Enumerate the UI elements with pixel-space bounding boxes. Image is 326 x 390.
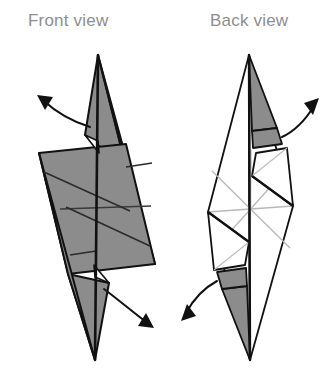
back-top-gray-strip (252, 128, 282, 148)
origami-diagram-canvas: Front view Back view (0, 0, 326, 390)
origami-diagram-root: Front view Back view (0, 0, 326, 390)
back-center-spine (249, 55, 250, 360)
front-view-label: Front view (28, 11, 109, 30)
back-bottom-gray-strip (217, 268, 247, 289)
back-view-label: Back view (210, 11, 289, 30)
